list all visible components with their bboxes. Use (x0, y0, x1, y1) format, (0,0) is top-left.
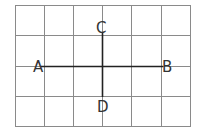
point-label-d: D (97, 98, 109, 116)
grid-diagram: A B C D (0, 0, 199, 132)
point-label-a: A (33, 58, 44, 76)
point-label-c: C (96, 19, 106, 37)
point-label-b: B (162, 58, 172, 76)
